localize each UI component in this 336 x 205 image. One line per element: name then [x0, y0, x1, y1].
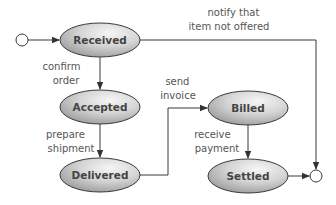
state-accepted-label: Accepted [73, 101, 128, 113]
label-notify-not-offered: notify that item not offered [189, 7, 270, 32]
label-send-invoice: send invoice [160, 76, 196, 101]
label-prepare-shipment: prepare shipment [46, 129, 95, 154]
final-state-circle [310, 170, 322, 182]
state-diagram: confirm order prepare shipment send invo… [0, 0, 336, 205]
state-billed-label: Billed [231, 102, 264, 114]
state-received: Received [60, 23, 140, 57]
state-received-label: Received [73, 34, 127, 46]
state-delivered: Delivered [60, 158, 140, 192]
label-confirm-order: confirm order [42, 61, 83, 86]
state-accepted: Accepted [60, 90, 140, 124]
state-settled-label: Settled [227, 170, 270, 182]
initial-state-circle [16, 34, 28, 46]
state-delivered-label: Delivered [72, 169, 129, 181]
state-billed: Billed [208, 91, 288, 125]
transition-delivered-billed [140, 108, 207, 175]
state-settled: Settled [208, 159, 288, 193]
label-receive-payment: receive payment [194, 129, 239, 154]
